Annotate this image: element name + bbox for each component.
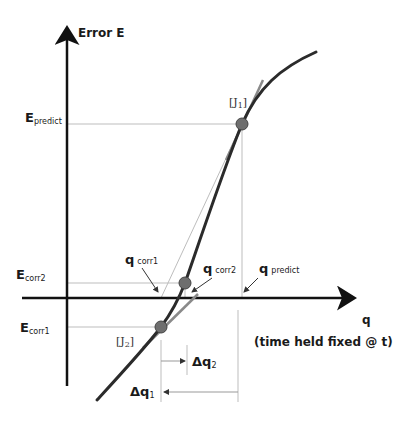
q-corr2-label: qcorr2 bbox=[203, 261, 236, 276]
newton-iteration-diagram: Error E q (time held fixed @ t) Epredict… bbox=[0, 0, 403, 426]
time-note: (time held fixed @ t) bbox=[254, 335, 393, 349]
e-corr2-label: Ecorr2 bbox=[16, 267, 46, 283]
q-predict-arrow bbox=[244, 278, 258, 292]
dq1-label: Δq1 bbox=[130, 384, 154, 400]
e-corr1-label: Ecorr1 bbox=[20, 320, 50, 336]
x-axis-label: q bbox=[362, 313, 371, 327]
e-predict-label: Epredict bbox=[25, 110, 62, 126]
j2-label: [J2] bbox=[116, 335, 134, 349]
q-corr2-arrow bbox=[192, 278, 212, 292]
point-corr1 bbox=[155, 321, 167, 333]
dq2-label: Δq2 bbox=[192, 354, 216, 370]
axes bbox=[22, 30, 352, 386]
q-corr1-arrow bbox=[142, 268, 158, 292]
q-corr1-label: qcorr1 bbox=[125, 252, 158, 267]
point-corr2 bbox=[179, 277, 191, 289]
q-predict-label: qpredict bbox=[259, 261, 299, 276]
point-predict bbox=[236, 118, 248, 130]
y-axis-label: Error E bbox=[78, 26, 125, 40]
j1-label: [J1] bbox=[229, 96, 247, 110]
